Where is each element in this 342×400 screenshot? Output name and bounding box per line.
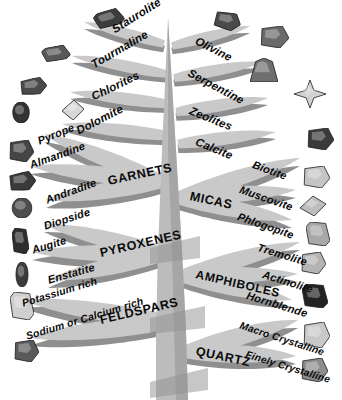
- specimen-plagioclase: [13, 340, 39, 362]
- specimen-serpentine-glyph: [259, 26, 289, 48]
- specimen-pyrope: [10, 102, 32, 123]
- specimen-phlogopite-glyph: [300, 196, 326, 216]
- specimen-diopside-glyph: [9, 198, 35, 218]
- specimen-dolomite-glyph: [61, 99, 85, 121]
- mineral-tree-diagram: StauroliteTourmalineChloritesDolomitePyr…: [0, 0, 342, 400]
- specimen-muscovite: [302, 166, 330, 188]
- specimen-andradite: [7, 170, 37, 193]
- specimen-enstatite: [14, 262, 30, 287]
- specimen-calcite: [294, 80, 326, 108]
- specimen-zeolite: [250, 58, 278, 82]
- specimen-augite-glyph: [12, 228, 29, 254]
- specimen-serpentine: [259, 26, 289, 48]
- specimen-biotite-glyph: [306, 128, 334, 150]
- specimen-enstatite-glyph: [14, 262, 30, 287]
- specimen-augite: [12, 228, 29, 254]
- specimen-tremolite: [306, 222, 330, 246]
- specimen-diopside: [9, 198, 35, 218]
- specimen-pyrope-glyph: [10, 102, 32, 123]
- specimen-plagioclase-glyph: [13, 340, 39, 362]
- specimen-biotite: [306, 128, 334, 150]
- specimen-andradite-glyph: [7, 170, 37, 193]
- specimen-dolomite: [61, 99, 85, 121]
- specimen-calcite-glyph: [294, 80, 326, 108]
- specimen-muscovite-glyph: [302, 166, 330, 188]
- specimen-tremolite-glyph: [306, 222, 330, 246]
- specimen-phlogopite: [300, 196, 326, 216]
- specimen-zeolite-glyph: [250, 58, 278, 82]
